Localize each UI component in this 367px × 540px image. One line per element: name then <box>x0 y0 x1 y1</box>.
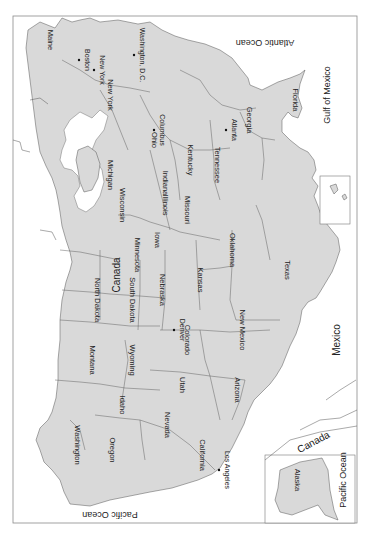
major-city-label: Washington, D.C. <box>138 28 146 83</box>
state-label: Indiana <box>161 171 170 196</box>
state-label: Iowa <box>153 232 162 249</box>
state-label: Minnesota <box>133 238 142 273</box>
state-label: Kansas <box>196 267 205 292</box>
us-map: CanadaMexicoCanadaAtlantic OceanGulf of … <box>0 0 367 540</box>
state-label: Ohio <box>150 132 159 148</box>
ocean-label: Pacific Ocean <box>82 510 138 520</box>
state-label: Washington <box>73 425 82 464</box>
state-label: California <box>198 439 207 472</box>
state-label: Florida <box>291 89 300 113</box>
major-city-label: Los Angeles <box>223 451 231 490</box>
state-label: Michigan <box>106 160 115 190</box>
state-label: Wyoming <box>128 344 137 375</box>
city-marker-icon <box>225 129 227 131</box>
country-label: Canada <box>111 257 122 292</box>
state-label: Maine <box>46 30 55 50</box>
state-label: Nevada <box>163 412 172 439</box>
state-label: South Dakota <box>128 277 137 323</box>
state-label: Nebraska <box>158 274 167 307</box>
country-label: Mexico <box>331 324 342 356</box>
state-label: Oregon <box>108 437 117 462</box>
major-city-label: Denver <box>179 319 186 342</box>
state-label: Georgia <box>245 107 254 135</box>
state-label: Idaho <box>118 396 127 415</box>
city-marker-icon <box>218 469 220 471</box>
city-marker-icon <box>173 329 175 331</box>
state-label: Tennessee <box>213 147 222 183</box>
city-marker-icon <box>153 129 155 131</box>
major-city-label: Boston <box>84 49 91 71</box>
state-label: Alaska <box>293 469 302 492</box>
ocean-label: Pacific Ocean <box>338 452 348 508</box>
ocean-label: Atlantic Ocean <box>236 38 295 48</box>
hawaii-inset <box>320 176 350 224</box>
city-marker-icon <box>93 69 95 71</box>
state-label: Wisconsin <box>118 188 127 222</box>
state-label: New Mexico <box>238 310 247 351</box>
major-city-label: New York <box>99 55 106 85</box>
state-label: Arizona <box>233 377 242 403</box>
state-label: Montana <box>88 345 97 375</box>
state-label: North Dakota <box>93 278 102 323</box>
state-label: Texas <box>283 260 292 280</box>
major-city-label: Columbus <box>159 114 166 146</box>
state-label: Illinois <box>161 195 170 216</box>
city-marker-icon <box>78 59 80 61</box>
ocean-label: Gulf of Mexico <box>322 66 332 124</box>
major-city-label: Atlanta <box>231 119 238 141</box>
state-label: Utah <box>178 377 187 393</box>
state-label: New York <box>106 79 115 111</box>
city-marker-icon <box>133 54 135 56</box>
state-label: Kentucky <box>186 145 195 176</box>
state-label: Missouri <box>183 196 192 224</box>
state-label: Oklahoma <box>228 233 237 268</box>
